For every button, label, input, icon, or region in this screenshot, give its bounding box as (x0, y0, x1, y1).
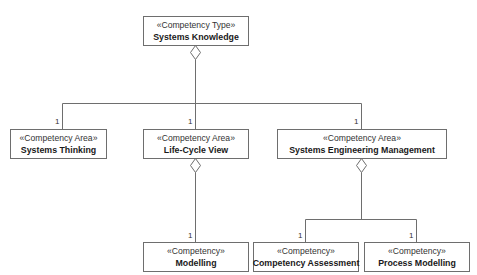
node-name: Systems Thinking (21, 144, 96, 156)
node-name: Modelling (175, 257, 216, 269)
node-competency-assessment: «Competency» Competency Assessment (253, 242, 359, 272)
stereotype-label: «Competency Area» (20, 133, 98, 144)
node-name: Life-Cycle View (164, 144, 228, 156)
node-name: Process Modelling (378, 257, 456, 269)
multiplicity-label: 1 (188, 117, 192, 126)
node-name: Competency Assessment (253, 257, 360, 269)
node-systems-knowledge: «Competency Type» Systems Knowledge (143, 16, 249, 46)
node-name: Systems Engineering Management (289, 144, 435, 156)
stereotype-label: «Competency Type» (157, 20, 236, 31)
aggregation-diamond-icon (357, 159, 367, 173)
node-process-modelling: «Competency» Process Modelling (364, 242, 470, 272)
multiplicity-label: 1 (409, 231, 413, 240)
multiplicity-label: 1 (298, 231, 302, 240)
stereotype-label: «Competency» (167, 246, 225, 257)
stereotype-label: «Competency Area» (323, 133, 401, 144)
multiplicity-label: 1 (55, 117, 59, 126)
node-modelling: «Competency» Modelling (143, 242, 249, 272)
stereotype-label: «Competency» (388, 246, 446, 257)
stereotype-label: «Competency» (277, 246, 335, 257)
node-name: Systems Knowledge (153, 31, 239, 43)
multiplicity-label: 1 (354, 117, 358, 126)
node-systems-thinking: «Competency Area» Systems Thinking (10, 129, 107, 159)
competency-diagram: «Competency Type» Systems Knowledge 1 «C… (0, 0, 477, 275)
node-systems-engineering-management: «Competency Area» Systems Engineering Ma… (277, 129, 447, 159)
multiplicity-label: 1 (188, 231, 192, 240)
node-life-cycle-view: «Competency Area» Life-Cycle View (143, 129, 249, 159)
aggregation-diamond-icon (191, 46, 201, 60)
aggregation-diamond-icon (191, 159, 201, 173)
stereotype-label: «Competency Area» (157, 133, 235, 144)
